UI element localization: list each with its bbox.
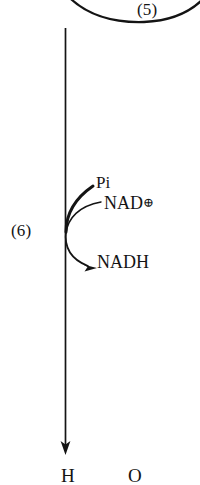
nadh-arrowhead [83, 265, 97, 272]
cofactor-in-arrow-group [66, 186, 101, 233]
nad-text: NAD [104, 193, 143, 213]
step-6-label: (6) [11, 222, 31, 239]
nadh-out-arrow [66, 231, 88, 266]
cofactor-label-pi: Pi [96, 174, 110, 191]
upper-loop-arc-group [66, 0, 200, 22]
charge-plus-icon: ⊕ [143, 195, 154, 210]
cofactor-out-arrow-group [66, 231, 97, 272]
cofactor-label-nad-plus: NAD⊕ [104, 194, 154, 212]
pi-in-arrow [66, 186, 93, 232]
cofactor-label-nadh: NADH [97, 253, 149, 271]
atom-label-o: O [128, 466, 142, 485]
atom-label-h: H [61, 466, 75, 485]
figure-canvas: (5) (6) Pi NAD⊕ NADH H O [0, 0, 200, 485]
step-5-label: (5) [137, 1, 157, 18]
pathway-diagram [0, 0, 200, 485]
upper-loop-arc [66, 0, 200, 22]
